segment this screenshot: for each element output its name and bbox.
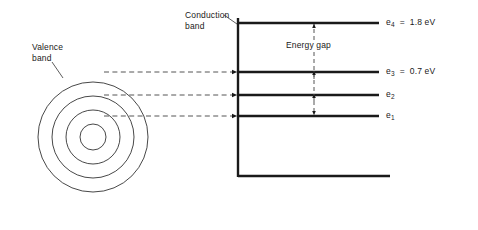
- energy-level-lines: [238, 23, 379, 116]
- subscript-4: 4: [391, 21, 395, 28]
- conduction-band-label: Conductionband: [185, 10, 230, 31]
- energy-gap-label: Energy gap: [286, 40, 331, 51]
- shell-2: [66, 110, 120, 164]
- subscript-1: 1: [391, 114, 395, 121]
- valence-band-leader-line: [52, 62, 63, 78]
- subscript-2: 2: [391, 93, 395, 100]
- energy-level-label-e2: e2: [386, 89, 395, 101]
- valence-band-shells: [38, 82, 148, 192]
- energy-level-label-e1: e1: [386, 110, 395, 122]
- energy-band-diagram: Conductionband Valenceband Energy gap e4…: [0, 0, 478, 230]
- energy-level-label-e3: e3 = 0.7 eV: [386, 66, 435, 78]
- shell-3: [52, 96, 134, 178]
- valence-band-label: Valenceband: [32, 42, 63, 63]
- shell-outer-4: [38, 82, 148, 192]
- subscript-3: 3: [391, 70, 395, 77]
- diagram-canvas: [0, 0, 478, 230]
- energy-level-label-e4: e4 = 1.8 eV: [386, 17, 435, 29]
- shell-inner-1: [80, 124, 106, 150]
- transition-arrows: [104, 72, 237, 116]
